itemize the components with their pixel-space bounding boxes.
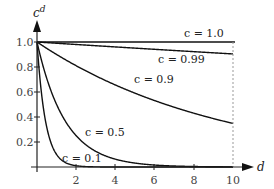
x-tick-10: 10 <box>226 174 240 187</box>
x-axis-label: d <box>257 160 265 174</box>
label-c-0.9: c = 0.9 <box>134 73 174 86</box>
x-tick-2: 2 <box>73 174 80 187</box>
label-c-0.99: c = 0.99 <box>158 53 205 66</box>
y-tick-0.8: 0.8 <box>16 61 34 74</box>
label-c-0.1: c = 0.1 <box>62 152 102 165</box>
x-tick-8: 8 <box>191 174 198 187</box>
x-tick-6: 6 <box>151 174 158 187</box>
y-axis-label: cd <box>33 4 46 20</box>
label-c-1.0: c = 1.0 <box>184 27 224 40</box>
x-tick-4: 4 <box>112 174 119 187</box>
y-tick-0.4: 0.4 <box>16 111 34 124</box>
y-tick-0.6: 0.6 <box>16 86 34 99</box>
x-axis-arrow-icon <box>242 163 254 171</box>
y-tick-0.2: 0.2 <box>16 136 34 149</box>
label-c-0.5: c = 0.5 <box>85 126 125 139</box>
y-axis-arrow-icon <box>33 20 41 32</box>
y-tick-1.0: 1.0 <box>16 36 34 49</box>
chart: 1.0 0.8 0.6 0.4 0.2 2 4 6 8 10 cd d c = … <box>0 0 274 189</box>
curves <box>37 42 235 167</box>
